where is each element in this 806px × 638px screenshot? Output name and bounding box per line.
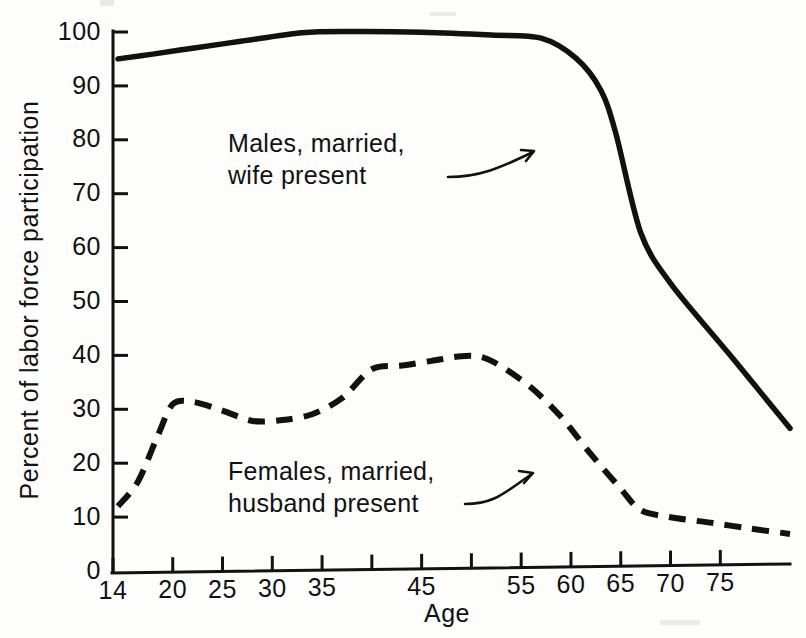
females-annotation: Females, married, husband present [228,457,533,517]
y-tick-label-60: 60 [72,232,101,260]
x-tick-label-20: 20 [158,575,187,603]
males-annotation-line-2: wife present [227,161,366,189]
x-tick-label-70: 70 [656,569,685,597]
y-tick-label-70: 70 [72,178,101,206]
males-annotation-leader-line [448,152,533,177]
females-annotation-leader-line [465,474,532,504]
y-tick-label-20: 20 [72,448,101,476]
y-axis-title: Percent of labor force participation [15,101,43,500]
females-annotation-line-2: husband present [228,489,419,517]
x-tick-label-30: 30 [258,574,287,602]
y-axis-tick-labels: 0102030405060708090100 [58,17,101,584]
x-tick-label-45: 45 [407,572,436,600]
x-axis-title: Age [424,599,470,627]
y-tick-label-10: 10 [72,502,101,530]
x-tick-label-65: 65 [606,569,635,597]
males-annotation-line-1: Males, married, [228,129,405,157]
females-annotation-line-1: Females, married, [228,457,435,485]
x-tick-label-25: 25 [208,575,237,603]
y-axis-ticks [113,32,128,517]
chart-plot-area: 0102030405060708090100 14202530354555606… [0,0,806,638]
x-tick-label-75: 75 [706,568,735,596]
x-tick-label-35: 35 [308,573,337,601]
y-tick-label-40: 40 [72,340,101,368]
series-line-females-married-husband-present [118,356,790,534]
y-tick-label-80: 80 [72,124,101,152]
y-tick-label-90: 90 [72,71,101,99]
x-tick-label-60: 60 [557,570,586,598]
scan-artifacts [100,0,700,625]
x-tick-label-14: 14 [99,576,128,604]
chart-figure: 0102030405060708090100 14202530354555606… [0,0,806,638]
x-tick-label-55: 55 [507,571,536,599]
y-tick-label-30: 30 [72,394,101,422]
series-line-males-married-wife-present [118,32,790,429]
y-tick-label-50: 50 [72,286,101,314]
y-tick-label-100: 100 [58,17,101,45]
males-annotation: Males, married, wife present [227,129,534,189]
